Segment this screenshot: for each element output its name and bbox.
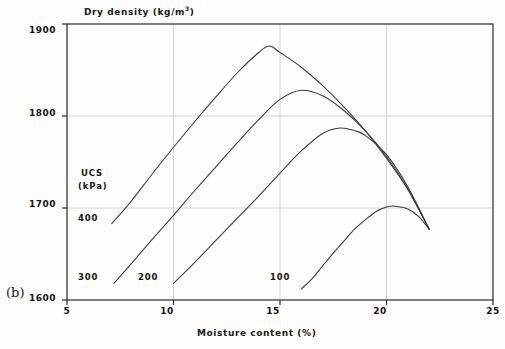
curve-200 [174,128,430,284]
y-axis-title: Dry density (kg/m3) [84,5,195,17]
plot-area [0,0,505,349]
x-tick-10: 10 [152,306,182,316]
legend-title-ucs: UCS [81,168,103,178]
curve-400 [112,46,429,229]
curve-label-400: 400 [78,213,98,223]
panel-label-b: (b) [6,285,24,300]
x-tick-5: 5 [52,306,82,316]
chart-figure: Dry density (kg/m3) Moisture content (%)… [0,0,505,349]
y-tick-1900: 1900 [16,25,56,35]
y-tick-1700: 1700 [16,199,56,209]
gridlines [67,24,493,300]
x-axis-title: Moisture content (%) [197,328,316,338]
curve-100 [301,206,429,289]
x-tick-25: 25 [478,306,505,316]
x-tick-20: 20 [365,306,395,316]
curve-label-300: 300 [78,272,98,282]
curve-300 [114,90,429,283]
y-tick-1800: 1800 [16,108,56,118]
x-tick-15: 15 [258,306,288,316]
curve-label-100: 100 [270,272,290,282]
legend-unit-kpa: (kPa) [78,181,108,191]
curve-label-200: 200 [138,272,158,282]
axis-ticks [62,24,493,305]
data-curves [112,46,429,289]
